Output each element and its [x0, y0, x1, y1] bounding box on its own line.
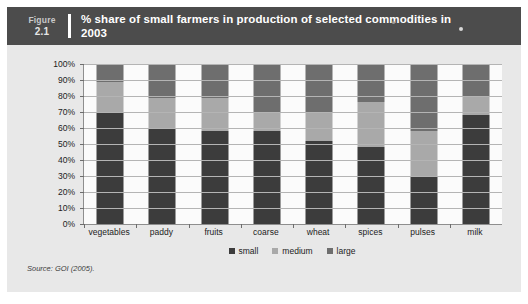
- x-axis-label-paddy: paddy: [135, 227, 187, 237]
- scan-speck-2: [459, 27, 463, 31]
- gridline: [84, 144, 502, 145]
- y-axis-tick-label: 60%: [58, 123, 75, 133]
- y-axis-tick-label: 0%: [63, 219, 75, 229]
- legend-label: small: [239, 246, 259, 256]
- bar-segment-small: [358, 147, 385, 224]
- y-axis-tick-label: 50%: [58, 139, 75, 149]
- bar-segment-large: [97, 64, 124, 82]
- legend-swatch-icon: [272, 248, 278, 254]
- legend-entry-large[interactable]: large: [327, 246, 356, 256]
- plot-wrapper: 0%10%20%30%40%50%60%70%80%90%100% vegeta…: [25, 64, 503, 236]
- y-axis-tick-label: 80%: [58, 91, 75, 101]
- bar-segment-small: [410, 176, 437, 224]
- legend-entry-small[interactable]: small: [229, 246, 259, 256]
- bar-segment-medium: [358, 102, 385, 147]
- bar-segment-large: [306, 64, 333, 112]
- gridline: [84, 96, 502, 97]
- gridline: [84, 128, 502, 129]
- scan-speck-1: [392, 21, 395, 24]
- legend-swatch-icon: [229, 248, 235, 254]
- chart-legend: smallmediumlarge: [83, 246, 501, 256]
- bar-segment-medium: [410, 131, 437, 176]
- bar-segment-small: [306, 141, 333, 224]
- legend-swatch-icon: [327, 248, 333, 254]
- bar-segment-large: [410, 64, 437, 131]
- gridline: [84, 64, 502, 65]
- x-axis-label-spices: spices: [344, 227, 396, 237]
- chart-zone: 0%10%20%30%40%50%60%70%80%90%100% vegeta…: [7, 45, 521, 292]
- legend-label: medium: [282, 246, 312, 256]
- bar-segment-large: [253, 64, 280, 112]
- legend-entry-medium[interactable]: medium: [272, 246, 312, 256]
- figure-number: 2.1: [16, 26, 68, 37]
- source-note: Source: GOI (2005).: [27, 264, 95, 273]
- figure-label: Figure: [16, 15, 68, 26]
- x-axis-label-vegetables: vegetables: [83, 227, 135, 237]
- gridline: [84, 160, 502, 161]
- x-axis-label-fruits: fruits: [188, 227, 240, 237]
- figure-header: Figure 2.1 % share of small farmers in p…: [7, 7, 521, 45]
- bar-segment-medium: [201, 98, 228, 132]
- gridline: [84, 192, 502, 193]
- gridline: [84, 176, 502, 177]
- y-axis-tick-label: 70%: [58, 107, 75, 117]
- x-axis-label-coarse: coarse: [240, 227, 292, 237]
- legend-label: large: [337, 246, 356, 256]
- gridline: [84, 80, 502, 81]
- gridline: [84, 112, 502, 113]
- bar-segment-small: [201, 131, 228, 224]
- y-axis-tick-label: 40%: [58, 155, 75, 165]
- header-divider-rule: [68, 14, 71, 38]
- y-axis-tick-mark: [80, 224, 84, 225]
- bar-segment-small: [253, 131, 280, 224]
- y-axis-tick-label: 20%: [58, 187, 75, 197]
- figure-number-block: Figure 2.1: [16, 15, 68, 37]
- figure-title: % share of small farmers in production o…: [81, 12, 461, 41]
- y-axis-tick-label: 100%: [53, 59, 75, 69]
- plot-area: [83, 64, 502, 225]
- y-axis-tick-label: 10%: [58, 203, 75, 213]
- y-axis-tick-label: 90%: [58, 75, 75, 85]
- x-axis-label-milk: milk: [449, 227, 501, 237]
- figure-panel: Figure 2.1 % share of small farmers in p…: [7, 7, 521, 292]
- bar-segment-medium: [306, 112, 333, 141]
- gridline: [84, 208, 502, 209]
- x-axis-label-pulses: pulses: [397, 227, 449, 237]
- y-axis-tick-label: 30%: [58, 171, 75, 181]
- y-axis: 0%10%20%30%40%50%60%70%80%90%100%: [25, 64, 79, 224]
- x-axis-label-wheat: wheat: [292, 227, 344, 237]
- x-axis-labels: vegetablespaddyfruitscoarsewheatspicespu…: [83, 227, 501, 237]
